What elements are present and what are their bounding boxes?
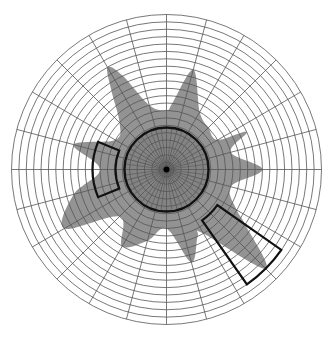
center-point [164, 167, 170, 173]
polar-chart [0, 0, 332, 341]
